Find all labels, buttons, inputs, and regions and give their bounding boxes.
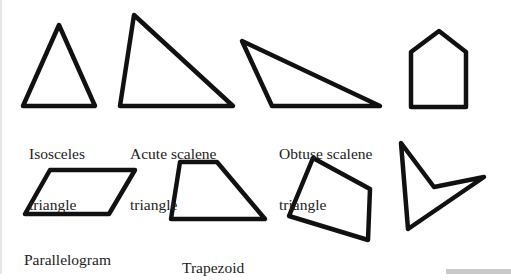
pentagon-house-shape [411,31,466,107]
parallelogram-label-line1: Parallelogram [24,251,111,268]
acute-scalene-triangle-shape [120,15,233,106]
concave-quadrilateral-shape [401,143,484,229]
obtuse-scalene-label-line2: triangle [279,196,372,213]
trapezoid-label: Trapezoid [182,225,244,280]
obtuse-scalene-label-line1: Obtuse scalene [279,145,372,162]
obtuse-scalene-triangle-shape [242,41,380,106]
trapezoid-label-line1: Trapezoid [182,259,244,276]
acute-scalene-label-line1: Acute scalene [130,145,217,162]
obtuse-scalene-label: Obtuse scalene triangle [279,111,372,247]
isosceles-triangle-shape [23,25,95,106]
isosceles-label-line1: Isosceles [29,145,85,162]
gray-bar [446,269,511,274]
parallelogram-label: Parallelogram [24,217,111,280]
isosceles-label-line2: triangle [29,196,85,213]
acute-scalene-label-line2: triangle [130,196,217,213]
